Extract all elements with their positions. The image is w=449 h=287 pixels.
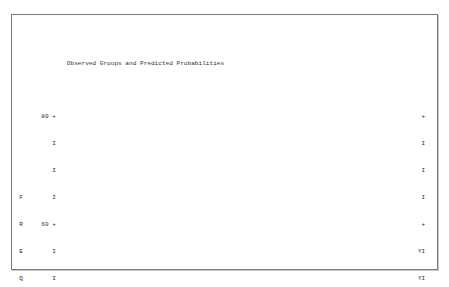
blank-line: [12, 33, 429, 42]
classification-plot: Observed Groups and Predicted Probabilit…: [12, 15, 429, 287]
blank-line: [12, 87, 429, 96]
classification-plot-panel: Observed Groups and Predicted Probabilit…: [11, 14, 438, 270]
plot-row-80: 80 + +: [12, 113, 429, 122]
plot-row: F I I: [12, 194, 429, 203]
plot-row: Q I YI: [12, 275, 429, 284]
plot-row-60: R 60 + +: [12, 221, 429, 230]
plot-row: E I YI: [12, 248, 429, 257]
plot-title: Observed Groups and Predicted Probabilit…: [12, 60, 429, 69]
plot-row: I I: [12, 140, 429, 149]
plot-row: I I: [12, 167, 429, 176]
